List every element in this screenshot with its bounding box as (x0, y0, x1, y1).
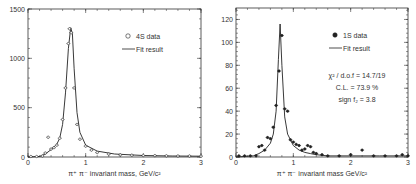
legend-label: Fit result (343, 45, 370, 52)
data-point (284, 108, 286, 110)
open-circle-marker-icon (126, 34, 130, 38)
data-point (401, 154, 403, 156)
legend-label: 4S data (136, 33, 160, 40)
y-tick-label: 0 (229, 154, 233, 161)
data-point (68, 28, 70, 30)
data-point (177, 155, 179, 157)
data-point (96, 151, 98, 153)
legend: 4S dataFit result (122, 33, 163, 53)
y-tick-label: 0 (21, 154, 25, 161)
data-point (269, 137, 271, 139)
data-point (255, 155, 257, 157)
data-point (79, 138, 81, 140)
data-point (73, 87, 75, 89)
x-tick-label: 0 (234, 159, 238, 166)
data-point (292, 141, 294, 143)
x-tick-label: 0 (26, 159, 30, 166)
data-point (47, 136, 49, 138)
x-tick-label: 1 (84, 159, 88, 166)
data-point (298, 144, 300, 146)
data-point (90, 149, 92, 151)
y-tick-label: 100 (221, 39, 233, 46)
data-point (188, 155, 190, 157)
fit-curve (28, 28, 201, 157)
data-point (407, 155, 409, 157)
fit-curve (236, 24, 408, 157)
plot-panel-right: 0123020406080100120π⁺ π⁻ invariant mass … (221, 8, 410, 177)
data-point (35, 155, 37, 157)
chart-canvas: 0123050010001500π⁺ π⁻ invariant mass, Ge… (0, 0, 416, 184)
data-point (200, 155, 202, 157)
data-point (306, 144, 308, 146)
data-point (263, 149, 265, 151)
y-tick-label: 1000 (9, 55, 25, 62)
y-tick-label: 80 (225, 62, 233, 69)
data-point (327, 155, 329, 157)
data-point (286, 110, 288, 112)
y-tick-label: 120 (221, 16, 233, 23)
y-tick-label: 40 (225, 108, 233, 115)
data-point (64, 87, 66, 89)
y-tick-label: 20 (225, 131, 233, 138)
data-point (67, 42, 69, 44)
y-tick-label: 1500 (9, 6, 25, 13)
data-point (30, 155, 32, 157)
data-point (372, 155, 374, 157)
data-point (384, 155, 386, 157)
data-point (108, 153, 110, 155)
data-point (395, 155, 397, 157)
data-point (76, 123, 78, 125)
data-point (266, 136, 268, 138)
y-tick-label: 60 (225, 85, 233, 92)
x-tick-label: 2 (349, 159, 353, 166)
data-point (249, 155, 251, 157)
annotation-text: χ² / d.o.f = 14.7/19 (329, 72, 386, 80)
data-point (70, 31, 72, 33)
x-tick-label: 1 (291, 159, 295, 166)
data-point (53, 146, 55, 148)
data-point (304, 148, 306, 150)
annotation-text: sign f₂ = 3.8 (338, 96, 375, 104)
data-point (312, 151, 314, 153)
data-point (50, 148, 52, 150)
data-point (278, 70, 280, 72)
x-axis-label: π⁺ π⁻ invariant mass GeV/c² (277, 170, 368, 177)
data-point (56, 144, 58, 146)
data-point (289, 139, 291, 141)
legend: 1S dataFit result (329, 32, 370, 52)
data-point (295, 143, 297, 145)
data-point (315, 152, 317, 154)
data-point (275, 104, 277, 106)
data-point (349, 154, 351, 156)
plot-panel-left: 0123050010001500π⁺ π⁻ invariant mass, Ge… (9, 6, 203, 178)
data-point (361, 149, 363, 151)
x-tick-label: 2 (141, 159, 145, 166)
data-point (61, 118, 63, 120)
legend-label: 1S data (343, 32, 367, 39)
data-point (321, 154, 323, 156)
data-point (261, 144, 263, 146)
data-point (309, 145, 311, 147)
filled-circle-marker-icon (333, 33, 337, 37)
data-point (165, 155, 167, 157)
x-tick-label: 3 (406, 159, 410, 166)
data-point (238, 155, 240, 157)
data-point (338, 155, 340, 157)
data-point (243, 155, 245, 157)
plot-frame (236, 8, 408, 157)
data-point (119, 154, 121, 156)
data-point (44, 152, 46, 154)
data-point (281, 34, 283, 36)
annotation-text: C.L. = 73.9 % (336, 84, 379, 91)
data-point (142, 154, 144, 156)
data-point (131, 154, 133, 156)
x-tick-label: 3 (199, 159, 203, 166)
plot-frame (28, 9, 201, 157)
data-point (272, 126, 274, 128)
data-point (59, 137, 61, 139)
data-point (84, 145, 86, 147)
y-tick-label: 500 (13, 104, 25, 111)
legend-label: Fit result (136, 46, 163, 53)
data-point (258, 145, 260, 147)
data-point (301, 149, 303, 151)
